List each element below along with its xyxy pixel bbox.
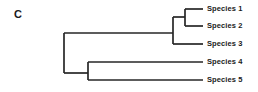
tree-branch-group <box>64 9 203 80</box>
tip-label-species-3: Species 3 <box>207 40 243 48</box>
tip-label-species-4: Species 4 <box>207 58 243 66</box>
tip-label-species-1: Species 1 <box>207 5 243 13</box>
tip-label-species-2: Species 2 <box>207 22 243 30</box>
tip-label-species-5: Species 5 <box>207 76 243 84</box>
figure-panel: C Species 1 Species 2 Species 3 Species … <box>0 0 258 92</box>
